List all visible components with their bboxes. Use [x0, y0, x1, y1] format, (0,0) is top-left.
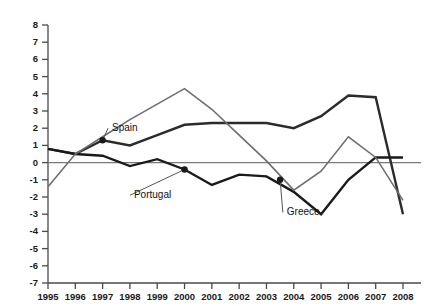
- economic-growth-line-chart: 876543210-1-2-3-4-5-6-7 1995199619971998…: [0, 0, 424, 306]
- x-tick-label: 2002: [229, 291, 250, 302]
- y-tick-label: -2: [30, 191, 38, 202]
- y-axis: 876543210-1-2-3-4-5-6-7: [30, 19, 48, 288]
- x-tick-label: 1996: [65, 291, 86, 302]
- series-line-portugal: [48, 149, 403, 214]
- annotation-label-spain: Spain: [112, 122, 138, 133]
- x-tick-label: 1999: [147, 291, 168, 302]
- x-tick-label: 2007: [365, 291, 386, 302]
- y-tick-label: 5: [33, 71, 39, 82]
- x-tick-label: 1995: [37, 291, 59, 302]
- y-tick-label: -5: [30, 243, 39, 254]
- data-series-group: [48, 89, 403, 215]
- x-tick-label: 2008: [392, 291, 413, 302]
- x-tick-label: 2004: [283, 291, 305, 302]
- series-annotations: SpainPortugalGreece: [99, 122, 320, 217]
- y-tick-label: 0: [33, 157, 38, 168]
- x-tick-label: 2005: [311, 291, 333, 302]
- y-tick-label: -4: [30, 225, 39, 236]
- x-tick-label: 2003: [256, 291, 277, 302]
- x-tick-label: 2006: [338, 291, 359, 302]
- y-tick-label: -3: [30, 208, 38, 219]
- y-tick-label: 2: [33, 122, 38, 133]
- chart-container: 876543210-1-2-3-4-5-6-7 1995199619971998…: [0, 0, 424, 306]
- annotation-marker-portugal: [181, 166, 187, 172]
- y-tick-label: 7: [33, 36, 38, 47]
- x-tick-label: 2000: [174, 291, 195, 302]
- x-tick-label: 1998: [119, 291, 140, 302]
- x-axis: 1995199619971998199920002001200220032004…: [37, 283, 421, 302]
- series-line-greece: [48, 89, 403, 201]
- x-tick-label: 2001: [201, 291, 223, 302]
- annotation-marker-greece: [277, 177, 283, 183]
- y-tick-label: 8: [33, 19, 38, 30]
- annotation-label-greece: Greece: [287, 206, 320, 217]
- x-tick-label: 1997: [92, 291, 113, 302]
- y-tick-label: 6: [33, 53, 38, 64]
- y-tick-label: -6: [30, 260, 38, 271]
- y-tick-label: -1: [30, 174, 39, 185]
- y-tick-label: 1: [33, 139, 39, 150]
- annotation-label-portugal: Portugal: [134, 189, 171, 200]
- y-tick-label: 3: [33, 105, 38, 116]
- annotation-marker-spain: [99, 137, 105, 143]
- y-tick-label: -7: [30, 277, 38, 288]
- y-tick-label: 4: [33, 88, 39, 99]
